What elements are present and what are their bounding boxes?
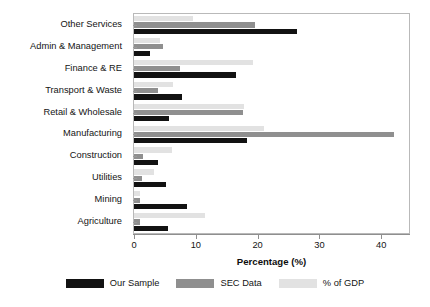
y-axis-tick bbox=[133, 200, 137, 201]
x-axis-tick bbox=[381, 235, 382, 239]
y-axis-labels: Other ServicesAdmin & ManagementFinance … bbox=[0, 13, 128, 234]
x-axis-tick bbox=[196, 235, 197, 239]
bar-of-gdp-finance-re bbox=[134, 60, 253, 65]
x-axis-tick-label: 20 bbox=[243, 240, 273, 251]
bar-our-sample-manufacturing bbox=[134, 138, 247, 143]
bar-sec-data-transport-waste bbox=[134, 88, 158, 93]
y-axis-tick bbox=[133, 25, 137, 26]
bar-of-gdp-manufacturing bbox=[134, 126, 264, 131]
y-axis-tick bbox=[133, 47, 137, 48]
x-axis-tick bbox=[258, 235, 259, 239]
bar-our-sample-transport-waste bbox=[134, 94, 182, 99]
legend-label: % of GDP bbox=[323, 278, 364, 289]
y-axis-tick bbox=[133, 178, 137, 179]
bar-of-gdp-retail-wholesale bbox=[134, 104, 244, 109]
x-axis-tick-label: 0 bbox=[119, 240, 149, 251]
bars-layer bbox=[134, 14, 409, 233]
x-axis-tick-label: 10 bbox=[181, 240, 211, 251]
x-axis-line bbox=[133, 234, 410, 235]
y-axis-tick-label: Finance & RE bbox=[65, 63, 122, 73]
bar-of-gdp-admin-management bbox=[134, 38, 160, 43]
legend-swatch-icon bbox=[66, 279, 104, 288]
bar-our-sample-retail-wholesale bbox=[134, 116, 169, 121]
x-axis-tick bbox=[134, 235, 135, 239]
legend-label: SEC Data bbox=[220, 278, 261, 289]
legend-swatch-icon bbox=[279, 279, 317, 288]
bar-of-gdp-mining bbox=[134, 191, 140, 196]
y-axis-tick-label: Admin & Management bbox=[30, 41, 122, 51]
x-axis-tick-label: 40 bbox=[366, 240, 396, 251]
y-axis-tick bbox=[133, 134, 137, 135]
bar-chart: Other ServicesAdmin & ManagementFinance … bbox=[0, 0, 430, 307]
bar-of-gdp-other-services bbox=[134, 16, 193, 21]
bar-sec-data-other-services bbox=[134, 22, 255, 27]
y-axis-tick bbox=[133, 91, 137, 92]
legend-item[interactable]: Our Sample bbox=[66, 278, 160, 289]
bar-our-sample-finance-re bbox=[134, 72, 236, 77]
x-axis-title: Percentage (%) bbox=[133, 256, 410, 267]
x-axis-tick bbox=[319, 235, 320, 239]
legend-swatch-icon bbox=[176, 279, 214, 288]
bar-of-gdp-construction bbox=[134, 147, 172, 152]
y-axis-tick bbox=[133, 113, 137, 114]
bar-of-gdp-agriculture bbox=[134, 213, 205, 218]
legend-label: Our Sample bbox=[110, 278, 160, 289]
y-axis-tick-label: Mining bbox=[95, 194, 122, 204]
bar-our-sample-mining bbox=[134, 204, 187, 209]
bar-sec-data-manufacturing bbox=[134, 132, 394, 137]
y-axis-tick-label: Utilities bbox=[92, 172, 122, 182]
bar-sec-data-finance-re bbox=[134, 66, 180, 71]
y-axis-tick bbox=[133, 222, 137, 223]
y-axis-tick-label: Other Services bbox=[61, 19, 122, 29]
bar-our-sample-other-services bbox=[134, 29, 297, 34]
y-axis-tick bbox=[133, 156, 137, 157]
legend-item[interactable]: % of GDP bbox=[279, 278, 364, 289]
bar-our-sample-admin-management bbox=[134, 51, 150, 56]
y-axis-tick-label: Transport & Waste bbox=[45, 85, 122, 95]
bar-our-sample-utilities bbox=[134, 182, 166, 187]
x-axis-tick-label: 30 bbox=[304, 240, 334, 251]
bar-of-gdp-utilities bbox=[134, 169, 154, 174]
legend-item[interactable]: SEC Data bbox=[176, 278, 261, 289]
y-axis-tick-label: Agriculture bbox=[78, 216, 122, 226]
bar-sec-data-retail-wholesale bbox=[134, 110, 243, 115]
y-axis-tick-label: Construction bbox=[70, 150, 122, 160]
chart-legend: Our SampleSEC Data% of GDP bbox=[0, 278, 430, 289]
y-axis-tick-label: Manufacturing bbox=[63, 128, 122, 138]
y-axis-tick bbox=[133, 69, 137, 70]
bar-our-sample-agriculture bbox=[134, 226, 168, 231]
y-axis-tick-label: Retail & Wholesale bbox=[43, 107, 122, 117]
bar-sec-data-admin-management bbox=[134, 44, 163, 49]
bar-our-sample-construction bbox=[134, 160, 158, 165]
bar-of-gdp-transport-waste bbox=[134, 82, 173, 87]
